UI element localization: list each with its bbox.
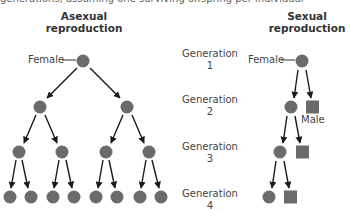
- female-node-gen4: [25, 191, 38, 204]
- female-node-gen4: [47, 191, 60, 204]
- arrow-icon: [111, 115, 123, 143]
- female-node-gen1: [77, 55, 90, 68]
- arrow-icon: [98, 160, 103, 188]
- arrow-icon: [54, 160, 59, 188]
- arrow-icon: [272, 161, 276, 188]
- female-node-gen3: [56, 146, 69, 159]
- arrow-icon: [132, 115, 144, 143]
- female-node-gen4: [263, 191, 276, 204]
- arrow-icon: [295, 116, 300, 143]
- arrow-icon: [141, 160, 146, 188]
- arrow-icon: [66, 160, 72, 188]
- female-node-gen2: [285, 101, 298, 114]
- female-node-gen4: [90, 191, 103, 204]
- male-node-gen4: [284, 191, 297, 204]
- arrow-icon: [283, 116, 287, 143]
- male-node-gen3: [296, 146, 309, 159]
- female-node-gen2: [121, 101, 134, 114]
- female-node-gen3: [13, 146, 26, 159]
- female-node-gen3: [100, 146, 113, 159]
- sexual-arrows: [272, 70, 311, 188]
- arrow-icon: [90, 68, 120, 98]
- female-node-gen2: [34, 101, 47, 114]
- female-node-gen4: [68, 191, 81, 204]
- arrow-icon: [47, 68, 77, 98]
- female-node-gen1: [296, 55, 309, 68]
- arrow-icon: [152, 160, 159, 188]
- asexual-arrows: [11, 68, 159, 188]
- arrow-icon: [109, 160, 115, 188]
- female-node-gen4: [111, 191, 124, 204]
- female-node-gen4: [155, 191, 168, 204]
- arrow-icon: [284, 161, 289, 188]
- male-node-gen2: [306, 101, 319, 114]
- arrow-icon: [45, 115, 57, 143]
- arrow-icon: [11, 160, 16, 188]
- female-node-gen3: [274, 146, 287, 159]
- female-node-gen4: [4, 191, 17, 204]
- arrow-icon: [306, 70, 311, 98]
- arrow-icon: [22, 160, 28, 188]
- arrow-icon: [294, 70, 298, 98]
- arrow-icon: [24, 115, 36, 143]
- sexual-nodes: [263, 55, 320, 204]
- female-node-gen4: [134, 191, 147, 204]
- female-node-gen3: [143, 146, 156, 159]
